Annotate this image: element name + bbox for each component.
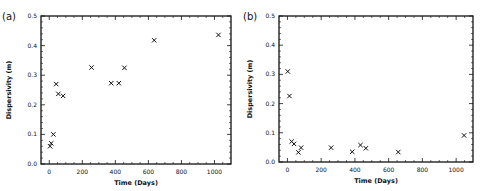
data-point-x-marker — [61, 94, 65, 98]
y-tick-label: 0.2 — [27, 101, 37, 108]
data-point-x-marker — [364, 146, 368, 150]
y-tick-label: 0.3 — [27, 71, 37, 78]
y-tick-label: 0.2 — [265, 100, 275, 107]
data-point-x-marker — [296, 150, 300, 154]
y-tick-label: 0.0 — [265, 158, 275, 165]
data-point-x-marker — [462, 133, 466, 137]
data-point-x-marker — [54, 82, 58, 86]
chart-panel-a: (a)0.00.10.20.30.40.502004006008001000Ti… — [0, 0, 241, 191]
x-tick-label: 200 — [315, 166, 327, 173]
data-points — [286, 69, 467, 154]
data-point-x-marker — [299, 145, 303, 149]
y-tick-label: 0.3 — [265, 70, 275, 77]
y-tick-label: 0.4 — [265, 41, 275, 48]
x-axis: 02004006008001000 — [47, 16, 222, 175]
x-tick-label: 400 — [110, 168, 122, 175]
chart-panel-b: (b)0.00.10.20.30.40.502004006008001000Ti… — [241, 0, 482, 191]
y-tick-label: 0.1 — [265, 129, 275, 136]
data-point-x-marker — [350, 150, 354, 154]
y-axis: 0.00.10.20.30.40.5 — [27, 12, 231, 167]
y-axis-title: Dispersivity (m) — [246, 60, 254, 119]
data-point-x-marker — [216, 33, 220, 37]
data-point-x-marker — [287, 94, 291, 98]
data-point-x-marker — [109, 81, 113, 85]
plot-frame — [279, 16, 473, 162]
y-tick-label: 0.5 — [265, 12, 275, 19]
x-axis: 02004006008001000 — [286, 16, 465, 173]
y-axis: 0.00.10.20.30.40.5 — [265, 12, 473, 165]
data-point-x-marker — [89, 65, 93, 69]
y-tick-label: 0.5 — [27, 12, 37, 19]
panel-label: (b) — [243, 11, 257, 22]
x-tick-label: 1000 — [207, 168, 222, 175]
data-points — [48, 33, 221, 149]
x-tick-label: 800 — [417, 166, 429, 173]
scatter-chart-a: (a)0.00.10.20.30.40.502004006008001000Ti… — [0, 0, 241, 191]
data-point-x-marker — [51, 132, 55, 136]
data-point-x-marker — [329, 145, 333, 149]
x-tick-label: 0 — [47, 168, 51, 175]
data-point-x-marker — [358, 143, 362, 147]
y-tick-label: 0.1 — [27, 130, 37, 137]
x-tick-label: 600 — [143, 168, 155, 175]
x-tick-label: 400 — [349, 166, 361, 173]
x-axis-title: Time (Days) — [114, 179, 158, 187]
data-point-x-marker — [396, 150, 400, 154]
data-point-x-marker — [122, 66, 126, 70]
panel-label: (a) — [2, 11, 16, 22]
x-tick-label: 200 — [77, 168, 89, 175]
y-axis-title: Dispersivity (m) — [5, 61, 13, 120]
scatter-chart-b: (b)0.00.10.20.30.40.502004006008001000Ti… — [241, 0, 482, 191]
x-tick-label: 600 — [383, 166, 395, 173]
x-axis-title: Time (Days) — [354, 177, 398, 185]
plot-frame — [41, 16, 231, 164]
data-point-x-marker — [152, 38, 156, 42]
data-point-x-marker — [286, 69, 290, 73]
x-tick-label: 1000 — [448, 166, 463, 173]
data-point-x-marker — [117, 81, 121, 85]
y-tick-label: 0.4 — [27, 42, 37, 49]
data-point-x-marker — [292, 142, 296, 146]
data-point-x-marker — [56, 92, 60, 96]
x-tick-label: 0 — [286, 166, 290, 173]
y-tick-label: 0.0 — [27, 160, 37, 167]
x-tick-label: 800 — [176, 168, 188, 175]
